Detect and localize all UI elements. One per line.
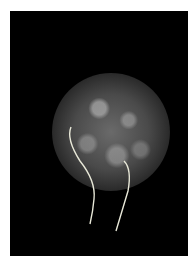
flagella [10, 11, 188, 256]
flagellum-right [116, 161, 129, 231]
micrograph-frame [10, 11, 188, 256]
flagellum-left [70, 127, 95, 224]
